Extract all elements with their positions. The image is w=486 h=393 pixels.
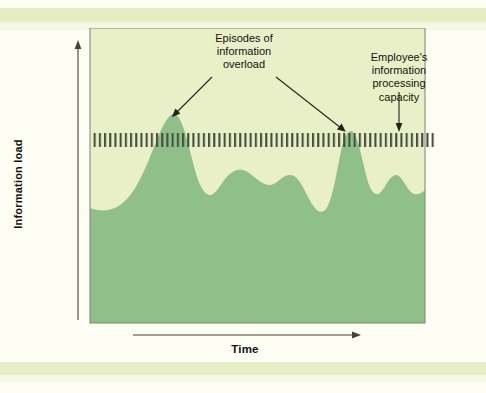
bottom-decorative-band [0,362,486,375]
x-axis-label: Time [190,343,300,355]
y-axis-label: Information load [12,129,24,239]
x-axis-arrow [133,332,361,339]
bottom-decorative-band-light [0,375,486,382]
capacity-threshold-line [91,133,435,147]
chart-figure: Information load Time Episodes of inform… [0,28,486,358]
annotation-employee-capacity: Employee's information processing capaci… [344,51,454,104]
annotation-episodes-of-overload: Episodes of information overload [183,32,305,72]
y-axis-arrow [75,40,82,320]
top-decorative-band [0,8,486,22]
page-background: Information load Time Episodes of inform… [0,0,486,393]
